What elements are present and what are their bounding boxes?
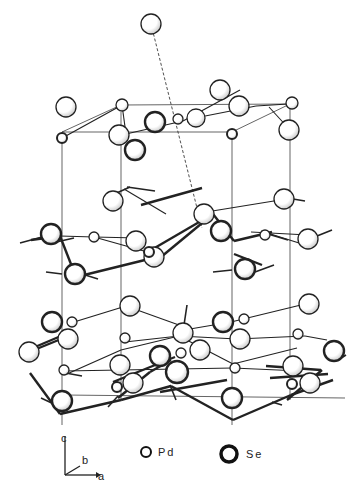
bond-stub <box>127 187 155 191</box>
bond-stub <box>184 305 187 325</box>
se-atom <box>187 109 205 127</box>
se-atom <box>103 191 123 211</box>
pd-atom <box>116 99 128 111</box>
atoms <box>19 14 344 411</box>
bond-stub <box>46 272 62 274</box>
pd-atom <box>230 363 240 373</box>
pd-atom <box>227 129 237 139</box>
pd-atom <box>239 314 249 324</box>
se-atom <box>274 189 294 209</box>
se-atom <box>141 14 161 34</box>
se-atom <box>300 373 320 393</box>
se-atom <box>145 112 165 132</box>
legend: c b a Pd Se <box>0 420 364 500</box>
axis-label-b: b <box>82 454 90 466</box>
bond-stub <box>317 230 332 236</box>
pd-atom <box>144 247 154 257</box>
pd-atom <box>67 317 77 327</box>
se-atom <box>230 329 250 349</box>
se-atom <box>65 264 85 284</box>
pd-atom <box>120 333 130 343</box>
se-atom <box>194 204 214 224</box>
se-atom <box>298 229 318 249</box>
pd-atom <box>176 348 186 358</box>
se-atom <box>279 120 299 140</box>
bond-thin <box>305 336 327 340</box>
bond-stub <box>255 265 274 272</box>
cell-edge <box>121 104 290 105</box>
pd-atom <box>260 230 270 240</box>
bond-thin <box>74 306 126 322</box>
pd-atom <box>57 133 67 143</box>
pd-atom <box>89 232 99 242</box>
se-atom <box>235 259 255 279</box>
se-atom <box>109 125 129 145</box>
se-atom <box>283 356 303 376</box>
legend-label-se: Se <box>246 448 263 460</box>
se-atom <box>19 342 39 362</box>
pd-atom <box>173 114 183 124</box>
bond-thin <box>125 336 179 342</box>
se-atom <box>58 329 78 349</box>
pd-atom <box>293 329 303 339</box>
se-atom <box>150 346 170 366</box>
se-atom <box>210 80 230 100</box>
se-atom <box>41 224 61 244</box>
se-atom <box>190 340 210 360</box>
axis-label-c: c <box>61 432 69 444</box>
se-atom <box>299 294 319 314</box>
bond-stub <box>268 234 288 240</box>
pd-atom <box>286 97 298 109</box>
se-atom <box>126 231 146 251</box>
se-atom <box>222 388 242 408</box>
se-atom <box>56 97 76 117</box>
se-atom <box>110 355 130 375</box>
se-atom <box>166 361 188 383</box>
pd-atom <box>59 365 69 375</box>
bond-thin <box>124 189 166 214</box>
bond-thick <box>76 259 149 277</box>
axis-label-a: a <box>98 470 106 482</box>
se-atom <box>125 140 145 160</box>
bond-stub <box>213 270 232 272</box>
legend-label-pd: Pd <box>158 446 175 458</box>
se-atom <box>324 341 344 361</box>
se-atom <box>123 373 143 393</box>
se-atom <box>120 296 140 316</box>
cell-edge <box>64 395 345 398</box>
se-atom <box>42 312 62 332</box>
se-atom <box>213 312 233 332</box>
pd-atom <box>287 379 297 389</box>
se-atom <box>229 96 249 116</box>
se-atom <box>52 391 72 411</box>
se-atom <box>211 221 231 241</box>
se-atom <box>173 323 193 343</box>
pd-atom <box>112 382 122 392</box>
